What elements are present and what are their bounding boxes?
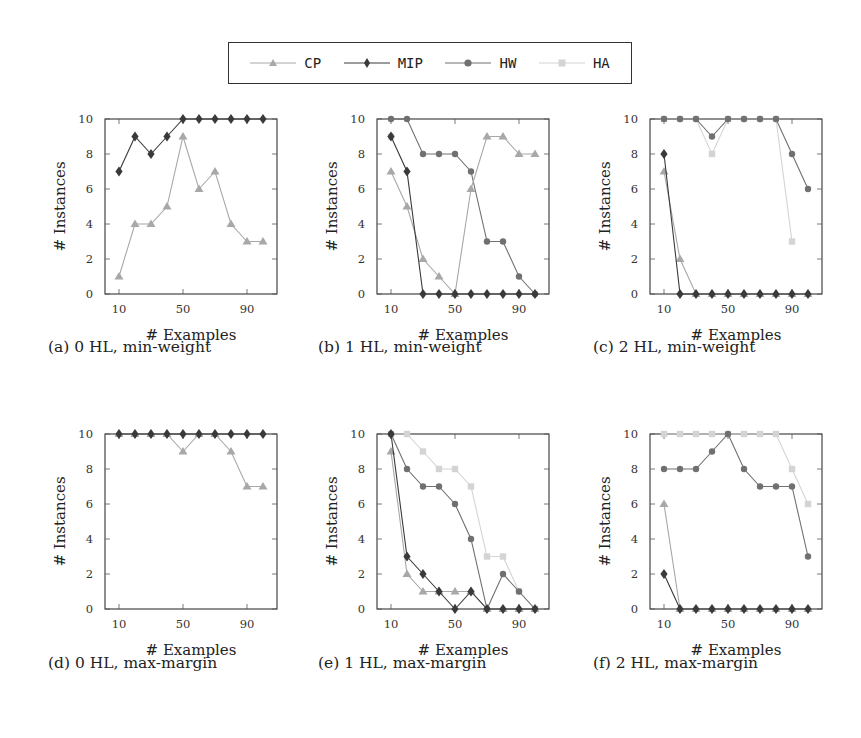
square-marker-icon bbox=[539, 57, 585, 69]
y-tick-label: 0 bbox=[358, 287, 365, 301]
x-tick-label: 50 bbox=[721, 617, 736, 631]
y-tick-label: 10 bbox=[78, 112, 93, 126]
series-cp bbox=[660, 167, 813, 297]
y-tick-label: 8 bbox=[631, 462, 638, 476]
y-tick-label: 6 bbox=[86, 182, 93, 196]
y-tick-label: 2 bbox=[358, 567, 365, 581]
y-tick-label: 8 bbox=[358, 462, 365, 476]
legend-label-mip: MIP bbox=[398, 55, 423, 71]
line-chart-a: 0246810105090# Examples# Instances bbox=[35, 109, 297, 364]
y-tick-label: 10 bbox=[350, 112, 365, 126]
y-tick-label: 0 bbox=[86, 287, 93, 301]
legend-item-mip: MIP bbox=[344, 55, 423, 71]
legend-label-hw: HW bbox=[499, 55, 516, 71]
legend-item-cp: CP bbox=[250, 55, 321, 71]
diamond-marker-icon bbox=[344, 57, 390, 69]
legend-item-hw: HW bbox=[445, 55, 516, 71]
plot-frame bbox=[377, 119, 549, 294]
y-tick-label: 6 bbox=[358, 182, 365, 196]
y-axis-label: # Instances bbox=[323, 161, 341, 251]
x-tick-label: 10 bbox=[657, 617, 672, 631]
y-tick-label: 2 bbox=[358, 252, 365, 266]
triangle-marker-icon bbox=[250, 57, 296, 69]
x-tick-label: 50 bbox=[448, 302, 463, 316]
y-tick-label: 4 bbox=[86, 532, 93, 546]
line-chart-d: 0246810105090# Examples# Instances bbox=[35, 424, 297, 679]
x-tick-label: 10 bbox=[384, 302, 399, 316]
series-mip bbox=[115, 114, 266, 177]
line-chart-b: 0246810105090# Examples# Instances bbox=[307, 109, 569, 364]
legend-label-ha: HA bbox=[593, 55, 610, 71]
y-tick-label: 0 bbox=[86, 602, 93, 616]
y-tick-label: 6 bbox=[86, 497, 93, 511]
legend-item-ha: HA bbox=[539, 55, 610, 71]
y-tick-label: 4 bbox=[86, 217, 93, 231]
y-tick-label: 4 bbox=[358, 217, 365, 231]
chart-caption-d: (d) 0 HL, max-margin bbox=[48, 654, 217, 672]
chart-legend: CP MIP HW HA bbox=[228, 42, 632, 84]
x-tick-label: 50 bbox=[721, 302, 736, 316]
y-tick-label: 10 bbox=[623, 112, 638, 126]
chart-caption-f: (f) 2 HL, max-margin bbox=[593, 654, 758, 672]
chart-caption-a: (a) 0 HL, min-weight bbox=[48, 338, 211, 356]
y-tick-label: 10 bbox=[623, 427, 638, 441]
x-tick-label: 90 bbox=[512, 302, 527, 316]
circle-marker-icon bbox=[445, 57, 491, 69]
series-hw bbox=[388, 116, 538, 297]
y-tick-label: 10 bbox=[78, 427, 93, 441]
series-cp bbox=[115, 430, 268, 490]
y-tick-label: 0 bbox=[358, 602, 365, 616]
x-tick-label: 90 bbox=[240, 302, 255, 316]
x-tick-label: 10 bbox=[112, 617, 127, 631]
y-tick-label: 8 bbox=[86, 462, 93, 476]
y-tick-label: 0 bbox=[631, 287, 638, 301]
x-tick-label: 90 bbox=[785, 302, 800, 316]
series-cp bbox=[115, 132, 268, 280]
y-tick-label: 4 bbox=[631, 532, 638, 546]
series-mip bbox=[660, 149, 811, 299]
x-tick-label: 90 bbox=[512, 617, 527, 631]
chart-caption-e: (e) 1 HL, max-margin bbox=[318, 654, 487, 672]
x-tick-label: 10 bbox=[657, 302, 672, 316]
y-tick-label: 6 bbox=[631, 182, 638, 196]
y-tick-label: 2 bbox=[86, 252, 93, 266]
y-tick-label: 2 bbox=[86, 567, 93, 581]
y-axis-label: # Instances bbox=[323, 476, 341, 566]
y-tick-label: 6 bbox=[358, 497, 365, 511]
series-mip bbox=[115, 429, 266, 439]
series-hw bbox=[661, 431, 811, 560]
chart-caption-b: (b) 1 HL, min-weight bbox=[318, 338, 482, 356]
y-tick-label: 2 bbox=[631, 252, 638, 266]
y-axis-label: # Instances bbox=[51, 161, 69, 251]
y-tick-label: 4 bbox=[631, 217, 638, 231]
x-tick-label: 10 bbox=[384, 617, 399, 631]
y-tick-label: 8 bbox=[358, 147, 365, 161]
series-hw bbox=[661, 116, 811, 192]
y-tick-label: 8 bbox=[86, 147, 93, 161]
y-tick-label: 4 bbox=[358, 532, 365, 546]
line-chart-e: 0246810105090# Examples# Instances bbox=[307, 424, 569, 679]
legend-label-cp: CP bbox=[304, 55, 321, 71]
x-tick-label: 90 bbox=[240, 617, 255, 631]
y-tick-label: 6 bbox=[631, 497, 638, 511]
line-chart-c: 0246810105090# Examples# Instances bbox=[580, 109, 842, 364]
plot-frame bbox=[650, 119, 822, 294]
y-tick-label: 2 bbox=[631, 567, 638, 581]
series-mip bbox=[660, 569, 811, 614]
plot-frame bbox=[105, 434, 277, 609]
y-tick-label: 8 bbox=[631, 147, 638, 161]
y-tick-label: 10 bbox=[350, 427, 365, 441]
x-tick-label: 50 bbox=[448, 617, 463, 631]
line-chart-f: 0246810105090# Examples# Instances bbox=[580, 424, 842, 679]
x-tick-label: 90 bbox=[785, 617, 800, 631]
y-axis-label: # Instances bbox=[51, 476, 69, 566]
series-ha bbox=[661, 116, 795, 245]
y-axis-label: # Instances bbox=[596, 476, 614, 566]
x-tick-label: 50 bbox=[176, 617, 191, 631]
y-tick-label: 0 bbox=[631, 602, 638, 616]
series-cp bbox=[660, 500, 813, 613]
chart-caption-c: (c) 2 HL, min-weight bbox=[593, 338, 756, 356]
x-tick-label: 10 bbox=[112, 302, 127, 316]
y-axis-label: # Instances bbox=[596, 161, 614, 251]
x-tick-label: 50 bbox=[176, 302, 191, 316]
